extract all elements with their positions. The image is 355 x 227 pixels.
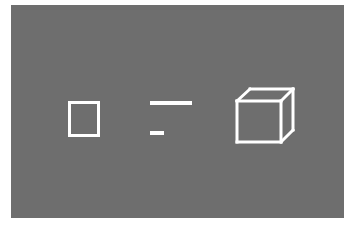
shapes-layer [0,0,355,227]
cube-edge-front_top_right-to-back_top_right [281,89,293,101]
cube-edge-front_bottom_right-to-back_bottom_right [281,130,293,142]
outlined-square [70,103,99,136]
wireframe-cube [237,89,293,142]
cube-edge-front_top_left-to-back_top_left [237,89,250,101]
outlined-square-outline [70,103,99,136]
figure-canvas [0,0,355,227]
